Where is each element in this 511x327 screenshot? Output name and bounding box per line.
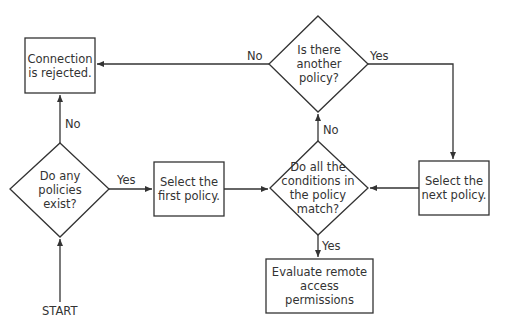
any-yes-label: Yes — [117, 174, 136, 187]
any-policies-node: Do any policies exist? — [10, 143, 110, 237]
another-policy-node: Is there another policy? — [269, 16, 369, 112]
start-label: START — [42, 305, 77, 318]
match-yes-label: Yes — [322, 240, 341, 253]
match-no-label: No — [323, 124, 339, 137]
select-next-node: Select the next policy. — [419, 161, 489, 215]
select-first-node: Select the first policy. — [154, 162, 224, 216]
another-yes-arrow — [368, 64, 453, 159]
rejected-node: Connection is rejected. — [25, 38, 95, 93]
another-yes-label: Yes — [370, 50, 389, 63]
another-no-label: No — [247, 50, 263, 63]
conditions-match-node: Do all the conditions in the policy matc… — [268, 141, 368, 235]
any-no-label: No — [65, 118, 81, 131]
evaluate-node: Evaluate remote access permissions — [266, 259, 373, 313]
